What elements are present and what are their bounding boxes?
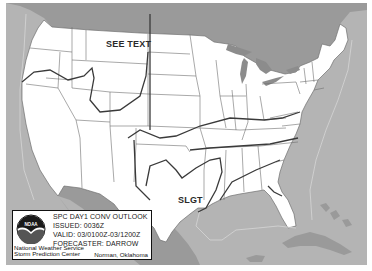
legend-valid: VALID: 03/0100Z-03/1200Z	[53, 231, 141, 238]
see-text-label: SEE TEXT	[106, 39, 151, 49]
legend-box: NOAA SPC DAY1 CONV OUTLOOK ISSUED: 0036Z…	[12, 210, 152, 260]
legend-product: SPC DAY1 CONV OUTLOOK	[53, 213, 148, 220]
slgt-label: SLGT	[178, 195, 203, 205]
legend-agency: National Weather Service Storm Predictio…	[14, 245, 84, 257]
legend-location: Norman, Oklahoma	[94, 251, 148, 258]
noaa-logo-icon: NOAA	[16, 214, 46, 244]
legend-issued: ISSUED: 0036Z	[53, 222, 104, 229]
agency-line-2: Storm Prediction Center	[14, 251, 84, 257]
logo-text: NOAA	[24, 222, 38, 227]
